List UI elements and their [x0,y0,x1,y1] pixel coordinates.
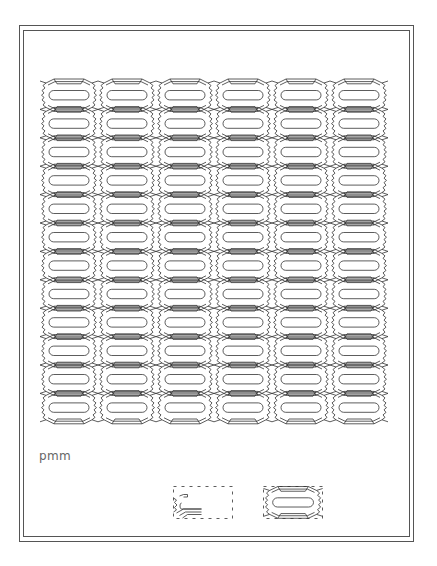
pattern-cell [214,363,272,395]
pattern-cell [156,249,214,281]
pattern-cell [98,136,156,168]
pattern-cell [330,391,388,423]
pattern-cell [214,79,272,111]
pattern-cell [272,335,330,367]
pattern-cell [330,306,388,338]
pattern-cell [156,221,214,253]
pattern-cell [156,136,214,168]
pattern-cell [330,136,388,168]
pattern-cell [98,221,156,253]
pattern-cell [40,249,98,281]
pattern-cell [156,363,214,395]
pattern-cell [156,193,214,225]
pattern-cell [98,193,156,225]
pattern-grid [40,79,388,424]
pattern-cell [330,79,388,111]
pattern-cell [156,306,214,338]
pattern-cell [272,363,330,395]
pattern-cell [214,278,272,310]
pattern-cell [156,335,214,367]
pattern-cell [330,107,388,139]
pmm-tiling-pattern [0,0,437,566]
pattern-cell [330,278,388,310]
pattern-cell [40,363,98,395]
pattern-cell [98,335,156,367]
pattern-cell [156,164,214,196]
pattern-cell [40,79,98,111]
pattern-cell [40,335,98,367]
pattern-cell [214,306,272,338]
wallpaper-group-label: pmm [39,449,71,463]
pattern-cell [272,306,330,338]
pattern-cell [40,164,98,196]
pattern-cell [330,335,388,367]
pattern-cell [214,107,272,139]
pattern-cell [156,107,214,139]
pattern-cell [98,391,156,423]
pattern-cell [98,278,156,310]
pattern-cell [40,193,98,225]
pattern-cell [40,136,98,168]
pattern-cell [272,164,330,196]
pattern-cell [40,221,98,253]
pattern-cell [330,193,388,225]
pattern-cell [272,136,330,168]
pattern-cell [156,391,214,423]
pattern-cell [156,278,214,310]
pattern-cell [272,391,330,423]
unit-cell-motif [264,487,323,519]
pattern-cell [330,221,388,253]
pattern-cell [214,249,272,281]
pattern-cell [330,164,388,196]
pattern-cell [40,391,98,423]
pattern-cell [330,363,388,395]
pattern-cell [272,249,330,281]
pattern-cell [214,335,272,367]
pattern-cell [272,221,330,253]
pattern-cell [214,164,272,196]
pattern-cell [98,363,156,395]
pattern-cell [214,391,272,423]
pattern-cell [330,249,388,281]
pattern-cell [40,107,98,139]
fundamental-region-motif [174,487,233,519]
pattern-cell [40,278,98,310]
pattern-cell [272,193,330,225]
pattern-cell [98,164,156,196]
pattern-cell [98,249,156,281]
pattern-cell [214,193,272,225]
pattern-cell [156,79,214,111]
pattern-cell [272,278,330,310]
pattern-cell [98,107,156,139]
pattern-cell [40,306,98,338]
pattern-cell [98,306,156,338]
pattern-cell [214,136,272,168]
pattern-cell [98,79,156,111]
pattern-cell [272,107,330,139]
pattern-cell [214,221,272,253]
pattern-cell [272,79,330,111]
